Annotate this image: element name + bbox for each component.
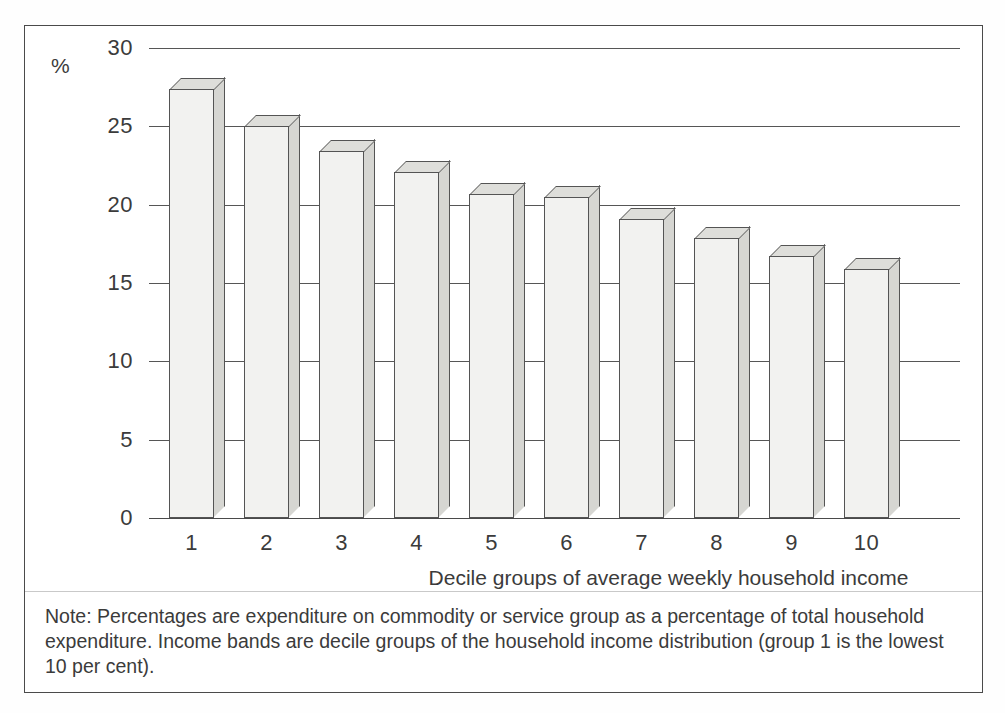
x-axis-tick-label: 4 — [384, 530, 449, 556]
bar-decile-10 — [844, 258, 900, 518]
bar-front-face — [619, 219, 664, 518]
figure-frame: % 051015202530 12345678910 Decile groups… — [24, 25, 983, 693]
chart-plot-area: % 051015202530 12345678910 — [25, 26, 984, 591]
bar-decile-3 — [319, 140, 375, 518]
bar-decile-6 — [544, 186, 600, 518]
bar-side-face — [213, 77, 225, 518]
note-separator — [25, 591, 982, 592]
bar-side-face — [513, 182, 525, 518]
bar-decile-9 — [769, 245, 825, 518]
y-axis-unit-label: % — [51, 54, 70, 78]
x-axis-baseline — [149, 518, 960, 519]
bar-decile-7 — [619, 208, 675, 518]
x-axis-tick-label: 2 — [234, 530, 299, 556]
x-axis-title: Decile groups of average weekly househol… — [25, 566, 982, 590]
x-axis-tick-label: 3 — [309, 530, 374, 556]
bar-front-face — [544, 197, 589, 518]
bar-side-face — [438, 160, 450, 518]
bar-front-face — [319, 151, 364, 518]
bar-front-face — [694, 238, 739, 518]
bar-front-face — [469, 194, 514, 518]
bar-front-face — [244, 126, 289, 518]
x-axis-tick-label: 8 — [684, 530, 749, 556]
x-axis-tick-label: 6 — [534, 530, 599, 556]
gridline-30 — [149, 48, 960, 49]
x-axis-tick-label: 1 — [159, 530, 224, 556]
x-axis-tick-label: 10 — [834, 530, 899, 556]
bar-side-face — [663, 207, 675, 518]
bar-side-face — [588, 185, 600, 518]
bar-decile-1 — [169, 78, 225, 518]
x-axis-tick-label: 9 — [759, 530, 824, 556]
y-axis-tick-label: 10 — [87, 348, 133, 374]
bar-side-face — [288, 114, 300, 518]
y-axis-tick-label: 0 — [87, 505, 133, 531]
bar-decile-5 — [469, 183, 525, 518]
bar-side-face — [738, 226, 750, 518]
y-axis-tick-label: 30 — [87, 35, 133, 61]
bar-front-face — [769, 256, 814, 518]
y-axis-tick-label: 15 — [87, 270, 133, 296]
bar-side-face — [813, 244, 825, 518]
y-axis-tick-label: 25 — [87, 113, 133, 139]
bar-decile-2 — [244, 115, 300, 518]
x-axis-tick-label: 5 — [459, 530, 524, 556]
x-axis-tick-label: 7 — [609, 530, 674, 556]
bar-decile-8 — [694, 227, 750, 518]
bar-decile-4 — [394, 161, 450, 518]
y-axis-tick-label: 5 — [87, 427, 133, 453]
bar-front-face — [844, 269, 889, 518]
y-axis-tick-label: 20 — [87, 192, 133, 218]
bar-side-face — [888, 257, 900, 518]
figure-note: Note: Percentages are expenditure on com… — [45, 604, 962, 679]
bar-front-face — [394, 172, 439, 518]
bar-side-face — [363, 139, 375, 518]
bar-front-face — [169, 89, 214, 518]
figure-page: % 051015202530 12345678910 Decile groups… — [0, 0, 1005, 713]
